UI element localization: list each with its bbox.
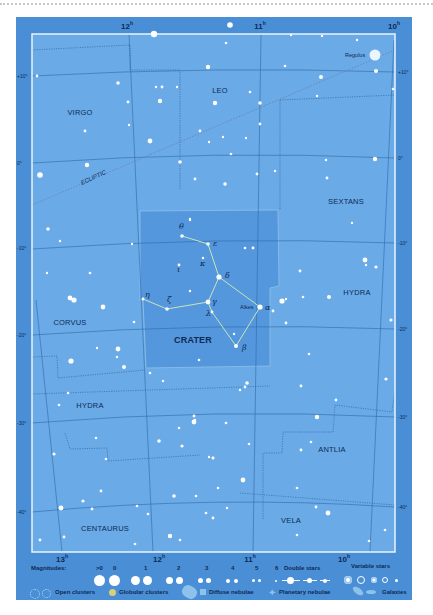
constellation-label-hydra-north: HYDRA: [343, 288, 370, 297]
legend-mag-0: 0: [113, 565, 116, 571]
legend-mag-gt0: >0: [96, 565, 103, 571]
legend-magnitudes-label: Magnitudes:: [31, 565, 66, 571]
dec-label-right: -10°: [398, 240, 407, 246]
magnitude-5-star-icon: [252, 579, 255, 582]
variable-star-icon: [371, 577, 377, 583]
constellation-label-sextans: SEXTANS: [328, 197, 364, 206]
ra-label-top-11h: 11h: [254, 20, 266, 31]
constellation-label-antlia: ANTLIA: [318, 445, 345, 454]
magnitude-5-star-icon: [258, 579, 261, 582]
legend-mag-6: 6: [275, 565, 278, 571]
legend-diffuse-nebulae-label: Diffuse nebulae: [209, 589, 254, 595]
star-label-alkes: Alkes: [240, 304, 253, 310]
legend-mag-4: 4: [231, 565, 234, 571]
diffuse-nebula-icon: [180, 583, 199, 601]
magnitude-2-star-icon: [176, 577, 183, 584]
legend-variable-stars-label: Variable stars: [351, 563, 390, 569]
legend-galaxies-label: Galaxies: [382, 589, 407, 595]
star-label-regulus: Regulus: [345, 52, 365, 58]
dec-label-right: +10°: [398, 69, 408, 75]
magnitude-2-star-icon: [166, 577, 173, 584]
dec-label-left: -40°: [17, 509, 26, 515]
dec-label-right: -20°: [398, 326, 407, 332]
constellation-label-leo: LEO: [212, 86, 228, 95]
dec-label-right: 0°: [398, 155, 403, 161]
legend-mag-2: 2: [177, 565, 180, 571]
dec-label-left: -20°: [17, 332, 26, 338]
diffuse-nebula-small-icon: [200, 589, 206, 595]
dec-label-left: +10°: [17, 73, 27, 79]
magnitude-3-star-icon: [206, 578, 211, 583]
open-cluster-icon: [30, 589, 40, 599]
double-star-icon: [307, 578, 312, 583]
magnitude-1-star-icon: [131, 576, 140, 585]
variable-star-max-icon: [344, 576, 352, 584]
planetary-nebula-icon: ✦: [268, 588, 277, 597]
constellation-label-crater: CRATER: [174, 335, 212, 345]
open-cluster-icon: [42, 589, 51, 598]
legend-globular-clusters-label: Globular clusters: [119, 589, 168, 595]
greek-label-theta: θ: [179, 223, 184, 231]
magnitude-4-star-icon: [226, 579, 230, 583]
variable-star-icon: [395, 579, 398, 582]
ra-label-top-12h: 12h: [121, 20, 133, 31]
legend-double-stars-label: Double stars: [284, 565, 320, 571]
variable-star-icon: [382, 577, 388, 583]
star-regulus: [370, 50, 381, 61]
dec-label-left: 0°: [17, 160, 22, 166]
greek-label-gamma: γ: [212, 298, 217, 306]
greek-label-beta: β: [242, 344, 247, 352]
magnitude-6-star-icon: [275, 580, 277, 582]
greek-label-zeta: ζ: [167, 296, 171, 304]
galaxy-icon: [351, 585, 364, 597]
dec-label-left: -30°: [17, 420, 26, 426]
variable-star-min-icon: [357, 576, 365, 584]
dec-label-left: -10°: [17, 245, 26, 251]
magnitude-3-star-icon: [198, 578, 203, 583]
ra-label-top-10h: 10h: [388, 20, 400, 31]
constellation-label-vela: VELA: [281, 516, 301, 525]
greek-label-iota: ι: [177, 266, 180, 274]
legend: Magnitudes: >0 0 1 2 3 4 5 6 Double star…: [16, 560, 412, 600]
constellation-label-virgo: VIRGO: [67, 108, 92, 117]
greek-label-epsilon: ε: [213, 240, 217, 248]
globular-cluster-icon: [109, 589, 116, 596]
legend-mag-3: 3: [205, 565, 208, 571]
double-star-icon: [323, 579, 327, 583]
magnitude-gt0-star-icon: [94, 575, 105, 586]
galaxy-icon: [366, 590, 376, 594]
double-star-icon: [287, 577, 294, 584]
magnitude-4-star-icon: [234, 579, 238, 583]
magnitude-1-star-icon: [143, 576, 152, 585]
legend-planetary-nebulae-label: Planetary nebulae: [279, 589, 330, 595]
magnitude-0-star-icon: [109, 575, 120, 586]
greek-label-delta: δ: [225, 272, 230, 280]
legend-mag-1: 1: [144, 565, 147, 571]
constellation-label-hydra-south: HYDRA: [76, 401, 103, 410]
constellation-label-centaurus: CENTAURUS: [81, 524, 129, 533]
greek-label-kappa: κ: [200, 260, 205, 268]
greek-label-eta: η: [145, 291, 150, 299]
dec-label-right: -40°: [398, 504, 407, 510]
greek-label-alpha: α: [265, 304, 270, 312]
constellation-label-corvus: CORVUS: [53, 318, 86, 327]
greek-label-lambda: λ: [206, 310, 211, 318]
dec-label-right: -30°: [398, 414, 407, 420]
legend-open-clusters-label: Open clusters: [55, 589, 95, 595]
legend-mag-5: 5: [255, 565, 258, 571]
